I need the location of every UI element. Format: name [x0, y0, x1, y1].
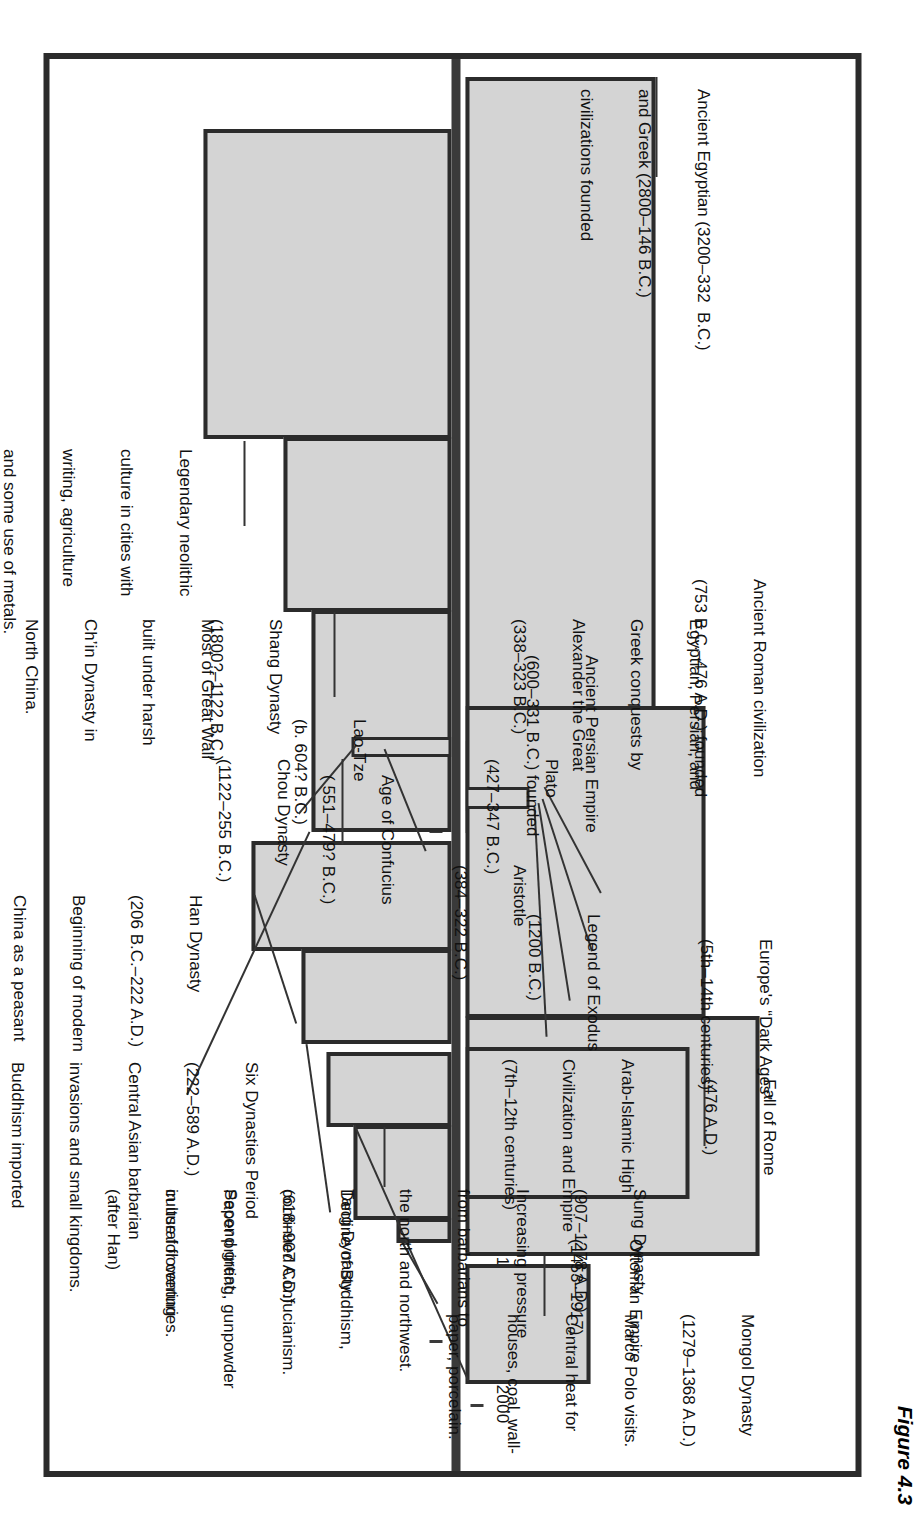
label-line: Aristotle [509, 865, 529, 980]
label-line: Beginning of modern [68, 895, 88, 1079]
label-line: and Greek (2800–146 B.C.) [634, 89, 654, 351]
label-line: Paper printing, gunpowder [219, 1189, 239, 1388]
label-line: (after Han) [103, 1189, 123, 1317]
label-line: paper, porcelain. [444, 1314, 464, 1454]
figure-border: 3000 2500 2000 1500 1000 500 0 500 1000 … [43, 53, 861, 1477]
label-han-dynasty: Han Dynasty (206 B.C.–222 A.D.) Beginnin… [0, 895, 243, 1079]
label-line: Mongol Dynasty [737, 1314, 757, 1454]
rotated-figure-stage: 3000 2500 2000 1500 1000 500 0 500 1000 … [26, 45, 871, 1495]
label-line: (753 B.C.–476 A.D.) founded [690, 579, 710, 797]
label-line: (384–322 B.C.) [450, 865, 470, 980]
bar-tang-dynasty [326, 1052, 451, 1127]
label-europe-dark-ages: Europe's “Dark Ages” (5th–14th centuries… [657, 939, 813, 1100]
leader-line-neolithic [243, 441, 245, 526]
label-line: writing, agriculture [58, 449, 78, 634]
label-line: Central heat for [561, 1314, 581, 1454]
label-line: in use for centuries. [161, 1189, 181, 1388]
label-chou-dynasty: Chou Dynasty (1122–255 B.C.) [175, 759, 331, 882]
bar-shang-dynasty [283, 437, 451, 612]
label-ancient-roman-civilization: Ancient Roman civilization (753 B.C.–476… [651, 579, 807, 797]
label-line: Buddhism imported [7, 1062, 27, 1293]
bar-legendary-neolithic [203, 129, 451, 439]
timeline-plot: 3000 2500 2000 1500 1000 500 0 500 1000 … [49, 59, 855, 1471]
label-line: Legend of Exodus [583, 914, 603, 1051]
label-line: Greek conquests by [626, 619, 646, 790]
label-line: Marco Polo visits. [620, 1314, 640, 1454]
label-line: built under harsh [138, 619, 158, 759]
label-line: (5th–14th centuries) [696, 939, 716, 1100]
label-line: houses, coal, wall- [503, 1314, 523, 1454]
leader-line-shang [333, 612, 335, 697]
label-line: and some use of metals. [0, 449, 19, 634]
label-legendary-neolithic: Legendary neolithic culture in cities wi… [0, 449, 233, 634]
figure-caption: Figure 4.3 [893, 1406, 917, 1505]
label-line: North China. [21, 619, 41, 759]
label-line: (1279–1368 A.D.) [678, 1314, 698, 1454]
label-line: Europe's “Dark Ages” [755, 939, 775, 1100]
label-mongol-dynasty: Mongol Dynasty (1279–1368 A.D.) Marco Po… [405, 1314, 795, 1454]
label-line: China as a peasant [9, 895, 29, 1079]
label-line: (206 B.C.–222 A.D.) [126, 895, 146, 1079]
label-line: Legendary neolithic [175, 449, 195, 634]
label-line: (338–323 B.C.) [509, 619, 529, 790]
label-line: Ch’in Dynasty in [80, 619, 100, 759]
label-line: continued Confucianism. [278, 1189, 298, 1388]
label-line: civilizations founded [576, 89, 596, 351]
label-line: Decline of Buddhism, [336, 1189, 356, 1388]
label-line: Chou Dynasty [273, 759, 293, 882]
label-line: Han Dynasty [185, 895, 205, 1079]
label-line: culture in cities with [116, 449, 136, 634]
label-ancient-egyptian-greek: Ancient Egyptian (3200–332 B.C.) and Gre… [537, 89, 752, 351]
label-line: Age of Confucius [377, 775, 397, 904]
label-great-wall: Most of Great Wall built under harsh Ch’… [0, 619, 255, 759]
label-line: Alexander the Great [568, 619, 588, 790]
leader-line-tang [383, 1127, 385, 1187]
label-line: (1122–255 B.C.) [214, 759, 234, 882]
label-line: Most of Great Wall [197, 619, 217, 759]
label-line: Ancient Egyptian (3200–332 B.C.) [693, 89, 713, 351]
label-line: Ancient Roman civilization [749, 579, 769, 797]
